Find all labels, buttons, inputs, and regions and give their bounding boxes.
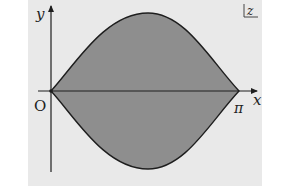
pi-label: π bbox=[233, 100, 244, 116]
origin-point bbox=[49, 89, 53, 93]
y-axis-label: y bbox=[35, 5, 45, 23]
x-axis-label: x bbox=[253, 91, 262, 109]
plane-label: z bbox=[246, 4, 254, 18]
origin-label: O bbox=[34, 97, 46, 115]
complex-plane-diagram: y x O π z bbox=[0, 0, 281, 186]
